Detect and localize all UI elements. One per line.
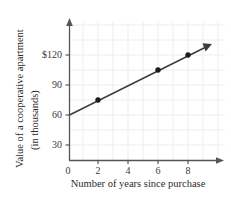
y-tick-label-90: 90 bbox=[26, 80, 62, 90]
x-tick-label-0: 0 bbox=[58, 166, 78, 176]
data-point bbox=[95, 97, 100, 102]
y-axis-title: Value of a cooperative apartment bbox=[14, 29, 25, 168]
data-point bbox=[185, 52, 190, 57]
data-line bbox=[70, 43, 213, 115]
x-tick-label-4: 4 bbox=[118, 166, 138, 176]
y-axis-title-units: (in thousands) bbox=[29, 90, 40, 150]
x-axis-title: Number of years since purchase bbox=[48, 178, 228, 190]
x-tick-label-6: 6 bbox=[148, 166, 168, 176]
y-tick-label-120: $120 bbox=[26, 50, 62, 60]
x-axis bbox=[69, 157, 224, 164]
x-tick-label-8: 8 bbox=[178, 166, 198, 176]
y-axis bbox=[66, 18, 73, 160]
x-tick-label-2: 2 bbox=[88, 166, 108, 176]
data-point bbox=[155, 67, 160, 72]
grid-horizontal bbox=[69, 25, 225, 145]
grid-vertical bbox=[83, 22, 218, 160]
chart-figure: $120 90 60 30 0 2 4 6 8 Number of years … bbox=[0, 0, 231, 198]
